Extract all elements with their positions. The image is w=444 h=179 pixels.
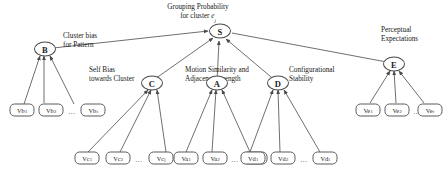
leaf-base: Ve — [392, 107, 399, 114]
leaf-node-vb2[interactable]: Vb2 — [39, 104, 64, 117]
leaf-sub: 1 — [25, 109, 27, 114]
root-label-line1: Grouping Probability — [167, 3, 228, 12]
label-root-grouping-probability: Grouping Probability for cluster ej — [167, 3, 228, 24]
edge-vd1-to-d — [250, 90, 273, 152]
leaf-ellipsis-c: ... — [135, 156, 142, 164]
leaf-sub: 1 — [90, 157, 92, 162]
leaf-ellipsis-a: ... — [231, 156, 238, 164]
root-label-line2: for cluster ej — [167, 12, 228, 24]
leaf-base: Vb — [88, 107, 96, 114]
node-s[interactable]: S — [209, 24, 231, 39]
label-cluster-bias: Cluster bias for Pattern — [63, 32, 97, 49]
leaf-sub: 2 — [121, 157, 123, 162]
label-configurational-stability: Configurational Stability — [289, 66, 335, 83]
motion-line1: Motion Similarity and — [185, 66, 249, 75]
leaf-sub: 2 — [54, 109, 56, 114]
leaf-node-va1[interactable]: Va1 — [174, 152, 199, 165]
leaf-base: Vd — [278, 155, 286, 162]
leaf-sub: 2 — [217, 157, 219, 162]
leaf-sub: 1 — [370, 109, 372, 114]
edge-ve1-to-e — [370, 71, 390, 103]
edge-vcj-to-c — [157, 90, 166, 152]
leaf-node-vc2[interactable]: Vc2 — [106, 152, 131, 165]
edge-vak-to-a — [222, 90, 250, 152]
leaf-sub: j — [164, 157, 165, 162]
leaf-node-vb1[interactable]: Vb1 — [10, 104, 35, 117]
perceptual-line1: Perceptual — [381, 26, 418, 35]
leaf-node-vdl[interactable]: Vdl — [313, 152, 338, 165]
label-perceptual-expectations: Perceptual Expectations — [381, 26, 418, 43]
leaf-node-vbi[interactable]: Vbi — [81, 104, 106, 117]
leaf-base: Ve — [426, 107, 433, 114]
node-d[interactable]: D — [267, 76, 289, 91]
edge-vd2-to-d — [278, 90, 280, 152]
leaf-sub: l — [328, 157, 329, 162]
node-a-label: A — [214, 78, 220, 88]
node-a[interactable]: A — [206, 76, 228, 91]
leaf-sub: 1 — [188, 157, 190, 162]
perceptual-line2: Expectations — [381, 35, 418, 44]
diagram-canvas: Grouping Probability for cluster ej Clus… — [0, 0, 444, 179]
node-d-label: D — [275, 78, 281, 88]
config-line1: Configurational — [289, 66, 335, 75]
edge-ve2-to-e — [394, 71, 396, 103]
leaf-base: Vc — [113, 155, 120, 162]
leaf-ellipsis-b: ... — [68, 108, 75, 116]
node-s-label: S — [218, 26, 223, 36]
edge-vc2-to-c — [120, 90, 151, 152]
node-e-label: E — [391, 59, 397, 69]
node-e[interactable]: E — [383, 57, 405, 72]
edge-va1-to-a — [186, 90, 212, 152]
leaf-node-ve2[interactable]: Ve2 — [385, 104, 410, 117]
edge-s-to-e — [232, 33, 392, 63]
self-bias-line2: towards Cluster — [89, 75, 134, 84]
leaf-node-ve1[interactable]: Ve1 — [356, 104, 381, 117]
edge-vc1-to-c — [88, 90, 148, 152]
leaf-sub: 1 — [256, 157, 258, 162]
label-self-bias: Self Bias towards Cluster — [89, 66, 134, 83]
node-c-label: C — [149, 78, 155, 88]
leaf-node-va2[interactable]: Va2 — [203, 152, 228, 165]
leaf-sub: i — [96, 109, 97, 114]
cluster-bias-line2: for Pattern — [63, 41, 97, 50]
edge-ver-to-e — [399, 71, 424, 103]
edge-va2-to-a — [212, 90, 216, 152]
leaf-base: Vb — [46, 107, 54, 114]
cluster-bias-line1: Cluster bias — [63, 32, 97, 41]
leaf-ellipsis-d: ... — [300, 156, 307, 164]
leaf-base: Va — [210, 155, 217, 162]
leaf-base: Vc — [82, 155, 89, 162]
leaf-node-ver[interactable]: Ver — [418, 104, 443, 117]
node-b-label: B — [42, 44, 48, 54]
node-c[interactable]: C — [141, 76, 163, 91]
leaf-base: Vd — [248, 155, 256, 162]
leaf-sub: 2 — [399, 109, 401, 114]
config-line2: Stability — [289, 75, 335, 84]
leaf-node-vd2[interactable]: Vd2 — [271, 152, 296, 165]
leaf-sub: 2 — [286, 157, 288, 162]
leaf-node-vc1[interactable]: Vc1 — [75, 152, 100, 165]
leaf-node-vcj[interactable]: Vcj — [149, 152, 174, 165]
edge-vbi-to-b — [50, 56, 74, 104]
leaf-sub: r — [433, 109, 435, 114]
self-bias-line1: Self Bias — [89, 66, 134, 75]
root-var-sub: j — [214, 18, 215, 23]
edge-vb1-to-b — [24, 56, 40, 104]
leaf-base: Vb — [17, 107, 25, 114]
node-b[interactable]: B — [34, 42, 56, 57]
leaf-node-vd1[interactable]: Vd1 — [241, 152, 266, 165]
leaf-base: Vc — [157, 155, 164, 162]
edge-vdl-to-d — [284, 90, 320, 152]
leaf-base: Ve — [363, 107, 370, 114]
leaf-base: Vd — [320, 155, 328, 162]
leaf-base: Va — [181, 155, 188, 162]
